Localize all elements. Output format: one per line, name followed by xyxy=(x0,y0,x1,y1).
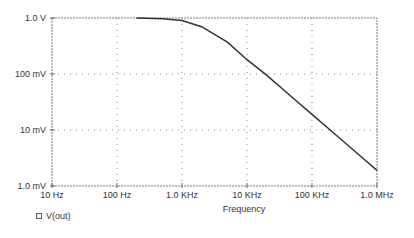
legend-square-icon xyxy=(36,213,42,219)
x-tick-label: 100 Hz xyxy=(87,190,147,200)
series-line-vout xyxy=(137,18,377,170)
x-tick-label: 1.0 KHz xyxy=(152,190,212,200)
y-tick-label: 1.0 V xyxy=(0,13,46,23)
x-tick-label: 1.0 MHz xyxy=(347,190,407,200)
x-axis-label: Frequency xyxy=(214,204,274,214)
plot-area xyxy=(0,0,414,238)
y-tick-label: 100 mV xyxy=(0,69,46,79)
plot-frame xyxy=(52,18,377,186)
legend-item: V(out) xyxy=(36,211,71,221)
x-tick-label: 100 KHz xyxy=(282,190,342,200)
x-tick-label: 10 Hz xyxy=(22,190,82,200)
y-tick-label: 10 mV xyxy=(0,125,46,135)
x-tick-label: 10 KHz xyxy=(217,190,277,200)
legend-label: V(out) xyxy=(46,211,71,221)
